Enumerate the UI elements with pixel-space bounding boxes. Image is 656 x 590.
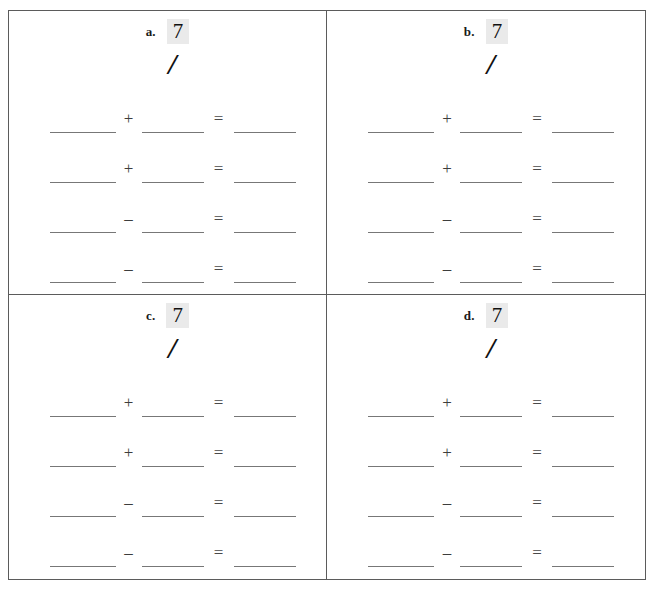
answer-blank-1[interactable] — [368, 231, 434, 233]
answer-blank-2[interactable] — [460, 415, 522, 417]
cell-d-equations: + = + = — [327, 379, 645, 579]
answer-blank-2[interactable] — [142, 281, 204, 283]
operator-symbol: – — [434, 214, 460, 224]
answer-blank-1[interactable] — [50, 565, 116, 567]
equals-symbol: = — [522, 214, 552, 224]
answer-blank-3[interactable] — [234, 131, 296, 133]
answer-blank-2[interactable] — [142, 131, 204, 133]
answer-blank-1[interactable] — [50, 231, 116, 233]
answer-blank-1[interactable] — [50, 281, 116, 283]
equation-row: + = — [327, 95, 645, 145]
operator-symbol: – — [434, 498, 460, 508]
equals-symbol: = — [522, 114, 552, 124]
answer-blank-2[interactable] — [142, 415, 204, 417]
answer-blank-2[interactable] — [142, 515, 204, 517]
answer-blank-1[interactable] — [50, 415, 116, 417]
answer-blank-2[interactable] — [142, 231, 204, 233]
operator-symbol: – — [434, 548, 460, 558]
answer-blank-2[interactable] — [460, 281, 522, 283]
equation-row: – = — [327, 245, 645, 295]
equals-symbol: = — [522, 264, 552, 274]
answer-blank-3[interactable] — [234, 565, 296, 567]
equation-row: – = — [327, 195, 645, 245]
answer-blank-3[interactable] — [234, 415, 296, 417]
worksheet-cell-c: c. 7 / + = + — [9, 295, 327, 579]
answer-blank-1[interactable] — [50, 515, 116, 517]
worksheet-cell-a: a. 7 / + = + — [9, 11, 327, 295]
equation-row: + = — [9, 95, 326, 145]
operator-symbol: – — [116, 548, 142, 558]
equals-symbol: = — [204, 114, 234, 124]
answer-blank-1[interactable] — [368, 181, 434, 183]
equals-symbol: = — [204, 448, 234, 458]
answer-blank-1[interactable] — [368, 131, 434, 133]
answer-blank-2[interactable] — [460, 565, 522, 567]
answer-blank-2[interactable] — [142, 181, 204, 183]
equals-symbol: = — [204, 214, 234, 224]
operator-symbol: + — [116, 114, 142, 124]
equals-symbol: = — [522, 164, 552, 174]
answer-blank-2[interactable] — [460, 465, 522, 467]
operator-symbol: + — [116, 164, 142, 174]
equation-row: – = — [327, 529, 645, 579]
answer-blank-2[interactable] — [460, 131, 522, 133]
answer-blank-3[interactable] — [234, 231, 296, 233]
answer-blank-1[interactable] — [50, 131, 116, 133]
answer-blank-1[interactable] — [368, 281, 434, 283]
answer-blank-3[interactable] — [234, 515, 296, 517]
operator-symbol: + — [434, 398, 460, 408]
cell-b-tally-mark: / — [327, 47, 645, 81]
equation-row: + = — [327, 429, 645, 479]
answer-blank-3[interactable] — [552, 281, 614, 283]
cell-d-number-highlight: 7 — [486, 303, 509, 328]
answer-blank-3[interactable] — [552, 181, 614, 183]
operator-symbol: – — [116, 214, 142, 224]
equation-row: + = — [9, 145, 326, 195]
operator-symbol: + — [434, 448, 460, 458]
answer-blank-2[interactable] — [460, 231, 522, 233]
answer-blank-3[interactable] — [234, 465, 296, 467]
answer-blank-1[interactable] — [50, 465, 116, 467]
equation-row: – = — [9, 245, 326, 295]
answer-blank-1[interactable] — [368, 415, 434, 417]
operator-symbol: + — [434, 114, 460, 124]
answer-blank-3[interactable] — [552, 515, 614, 517]
cell-b-label: b. — [464, 24, 475, 39]
answer-blank-3[interactable] — [552, 415, 614, 417]
answer-blank-3[interactable] — [552, 465, 614, 467]
equation-row: – = — [327, 479, 645, 529]
cell-c-label: c. — [146, 308, 155, 323]
cell-c-tally-mark: / — [9, 331, 326, 365]
cell-a-tally-mark: / — [9, 47, 326, 81]
answer-blank-1[interactable] — [368, 515, 434, 517]
equation-row: – = — [9, 529, 326, 579]
equals-symbol: = — [522, 448, 552, 458]
answer-blank-2[interactable] — [142, 465, 204, 467]
cell-a-equations: + = + = — [9, 95, 326, 295]
answer-blank-2[interactable] — [142, 565, 204, 567]
equals-symbol: = — [204, 398, 234, 408]
cell-b-equations: + = + = — [327, 95, 645, 295]
equation-row: + = — [327, 145, 645, 195]
equals-symbol: = — [522, 498, 552, 508]
worksheet-cell-d: d. 7 / + = + — [327, 295, 645, 579]
answer-blank-1[interactable] — [50, 181, 116, 183]
answer-blank-2[interactable] — [460, 181, 522, 183]
operator-symbol: + — [116, 448, 142, 458]
answer-blank-1[interactable] — [368, 465, 434, 467]
answer-blank-3[interactable] — [552, 231, 614, 233]
operator-symbol: – — [116, 264, 142, 274]
operator-symbol: + — [116, 398, 142, 408]
equals-symbol: = — [204, 498, 234, 508]
answer-blank-3[interactable] — [552, 131, 614, 133]
equals-symbol: = — [522, 398, 552, 408]
cell-a-number-highlight: 7 — [167, 19, 190, 44]
cell-a-label: a. — [146, 24, 156, 39]
answer-blank-3[interactable] — [234, 181, 296, 183]
answer-blank-3[interactable] — [234, 281, 296, 283]
answer-blank-2[interactable] — [460, 515, 522, 517]
equals-symbol: = — [204, 548, 234, 558]
answer-blank-1[interactable] — [368, 565, 434, 567]
answer-blank-3[interactable] — [552, 565, 614, 567]
equals-symbol: = — [204, 164, 234, 174]
